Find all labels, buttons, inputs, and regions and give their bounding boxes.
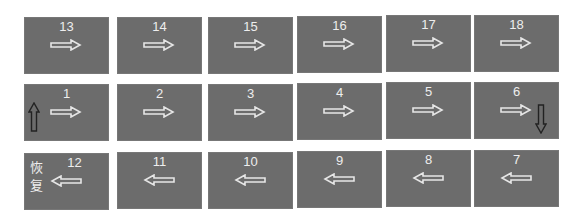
tile-number: 10	[208, 155, 293, 169]
tile-number: 16	[297, 19, 382, 33]
tile-16: 16	[297, 16, 382, 73]
tile-number: 6	[474, 85, 559, 99]
tile-number: 5	[386, 85, 471, 99]
up-arrow-icon	[28, 102, 40, 132]
tile-2: 2	[117, 84, 202, 141]
tile-13: 13	[24, 17, 109, 74]
tile-number: 9	[297, 154, 382, 168]
tile-4: 4	[297, 83, 382, 140]
tile-11: 11	[117, 152, 202, 209]
tile-number: 11	[117, 155, 202, 169]
tile-9: 9	[297, 151, 382, 208]
tile-8: 8	[386, 150, 471, 207]
tile-number: 14	[117, 20, 202, 34]
right-arrow-icon	[234, 39, 266, 51]
right-arrow-icon	[500, 37, 532, 49]
tile-number: 8	[386, 153, 471, 167]
tile-5: 5	[386, 82, 471, 139]
tile-6: 6	[474, 82, 559, 139]
restore-label-char: 恢	[30, 159, 44, 177]
left-arrow-icon	[234, 174, 266, 186]
tile-15: 15	[208, 17, 293, 74]
tile-7: 7	[474, 150, 559, 207]
right-arrow-icon	[323, 38, 355, 50]
restore-label: 恢 复	[30, 159, 44, 195]
tile-number: 3	[208, 87, 293, 101]
right-arrow-icon	[50, 106, 82, 118]
tile-number: 15	[208, 20, 293, 34]
tile-number: 17	[386, 18, 471, 32]
tile-number: 7	[474, 153, 559, 167]
tile-number: 13	[24, 20, 109, 34]
tile-18: 18	[474, 15, 559, 72]
left-arrow-icon	[500, 172, 532, 184]
right-arrow-icon	[323, 105, 355, 117]
tile-number: 1	[24, 87, 109, 101]
right-arrow-icon	[500, 104, 532, 116]
right-arrow-icon	[412, 104, 444, 116]
down-arrow-icon	[535, 104, 547, 134]
left-arrow-icon	[323, 173, 355, 185]
tile-3: 3	[208, 84, 293, 141]
right-arrow-icon	[50, 39, 82, 51]
left-arrow-icon	[50, 175, 82, 187]
tile-17: 17	[386, 15, 471, 72]
tile-number: 12	[32, 156, 117, 170]
tile-1: 1	[24, 84, 109, 141]
right-arrow-icon	[143, 39, 175, 51]
tile-number: 4	[297, 86, 382, 100]
right-arrow-icon	[143, 106, 175, 118]
restore-label-char: 复	[30, 177, 44, 195]
tile-14: 14	[117, 17, 202, 74]
tile-12: 12 恢 复	[24, 153, 109, 210]
right-arrow-icon	[234, 106, 266, 118]
tile-10: 10	[208, 152, 293, 209]
right-arrow-icon	[412, 37, 444, 49]
left-arrow-icon	[143, 174, 175, 186]
tile-number: 18	[474, 18, 559, 32]
tile-number: 2	[117, 87, 202, 101]
left-arrow-icon	[412, 172, 444, 184]
